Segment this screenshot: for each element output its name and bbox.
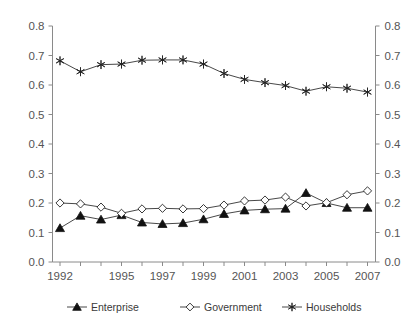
x-axis-tick-label: 1999	[191, 270, 217, 282]
y-axis-left-tick-label: 0.0	[29, 256, 45, 268]
y-axis-right-tick-label: 0.2	[385, 197, 401, 209]
data-point-marker-diamond-open	[261, 196, 269, 204]
y-axis-right-tick-label: 0.6	[385, 79, 401, 91]
y-axis-left-tick-label: 0.1	[29, 227, 45, 239]
x-axis-tick-label: 2001	[232, 270, 258, 282]
data-point-marker-star	[77, 67, 85, 76]
y-axis-left-tick-label: 0.5	[29, 109, 45, 121]
y-axis-right-tick-label: 0.4	[385, 138, 402, 150]
data-point-marker-triangle-filled	[55, 224, 64, 232]
axes-layer	[49, 26, 380, 266]
series-line-government	[60, 191, 368, 213]
x-axis-tick-label: 2005	[314, 270, 340, 282]
data-point-marker-diamond-open	[199, 205, 207, 213]
y-axis-right-tick-label: 0.7	[385, 50, 401, 62]
series-government	[56, 187, 372, 218]
data-point-marker-diamond-open	[186, 303, 194, 311]
data-point-marker-star	[56, 56, 64, 65]
legend-item-label: Households	[306, 301, 361, 313]
data-point-marker-diamond-open	[343, 191, 351, 199]
data-point-marker-star	[200, 60, 208, 69]
data-point-marker-star	[364, 88, 372, 97]
data-point-marker-diamond-open	[97, 203, 105, 211]
x-axis-tick-label: 1992	[47, 270, 73, 282]
series-line-households	[60, 60, 368, 92]
y-axis-right-tick-label: 0.5	[385, 109, 401, 121]
data-point-marker-diamond-open	[240, 197, 248, 205]
legend-item-government[interactable]: Government	[180, 301, 262, 313]
legend-item-label: Enterprise	[91, 301, 139, 313]
data-point-marker-diamond-open	[302, 202, 310, 210]
data-point-marker-triangle-filled	[76, 211, 85, 219]
y-axis-right-tick-label: 0.1	[385, 227, 401, 239]
series-line-enterprise	[60, 193, 368, 228]
y-axis-left-tick-label: 0.4	[29, 138, 46, 150]
chart-legend: EnterpriseGovernmentHouseholds	[67, 301, 361, 313]
data-point-marker-star	[220, 69, 228, 78]
chart-canvas: 0.80.70.60.50.40.30.20.10.0 0.80.70.60.5…	[0, 0, 417, 324]
x-axis-tick-label: 1997	[150, 270, 176, 282]
x-axis-tick-labels: 19921995199719992001200320052007	[47, 270, 380, 282]
legend-item-enterprise[interactable]: Enterprise	[67, 301, 139, 313]
data-point-marker-triangle-filled	[301, 189, 310, 197]
data-point-marker-diamond-open	[220, 201, 228, 209]
y-axis-left-tick-label: 0.2	[29, 197, 45, 209]
y-axis-left-tick-label: 0.6	[29, 79, 45, 91]
data-point-marker-diamond-open	[363, 187, 371, 195]
data-point-marker-diamond-open	[158, 204, 166, 212]
data-point-marker-diamond-open	[76, 200, 84, 208]
legend-item-households[interactable]: Households	[282, 301, 361, 313]
data-point-marker-diamond-open	[56, 199, 64, 207]
y-axis-left-tick-label: 0.3	[29, 168, 45, 180]
data-point-marker-diamond-open	[281, 193, 289, 201]
series-enterprise	[55, 189, 372, 232]
data-series-layer	[55, 56, 372, 232]
y-axis-right-tick-label: 0.8	[385, 20, 401, 32]
y-axis-right-tick-labels: 0.80.70.60.50.40.30.20.10.0	[385, 20, 402, 268]
line-chart: 0.80.70.60.50.40.30.20.10.0 0.80.70.60.5…	[0, 0, 417, 324]
y-axis-left-tick-labels: 0.80.70.60.50.40.30.20.10.0	[29, 20, 46, 268]
x-axis-tick-label: 1995	[109, 270, 135, 282]
data-point-marker-triangle-filled	[281, 204, 290, 212]
y-axis-left-tick-label: 0.7	[29, 50, 45, 62]
x-axis-tick-label: 2007	[355, 270, 381, 282]
y-axis-right-tick-label: 0.3	[385, 168, 401, 180]
series-households	[56, 56, 371, 97]
data-point-marker-diamond-open	[138, 205, 146, 213]
legend-item-label: Government	[204, 301, 262, 313]
y-axis-right-tick-label: 0.0	[385, 256, 401, 268]
data-point-marker-diamond-open	[179, 205, 187, 213]
data-point-marker-triangle-filled	[137, 218, 146, 226]
x-axis-tick-label: 2003	[273, 270, 299, 282]
data-point-marker-star	[302, 87, 310, 96]
y-axis-left-tick-label: 0.8	[29, 20, 45, 32]
